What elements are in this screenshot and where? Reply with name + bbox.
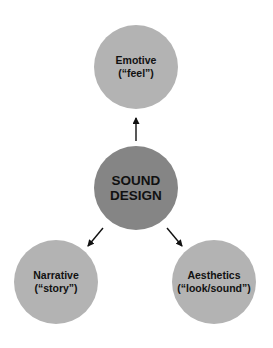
node-narrative: Narrative (“story”) [14, 240, 98, 324]
node-emotive: Emotive (“feel”) [94, 25, 178, 109]
node-center-line2: DESIGN [110, 188, 162, 203]
node-center-line1: SOUND [112, 173, 161, 188]
node-sound-design: SOUND DESIGN [94, 146, 178, 230]
node-emotive-title: Emotive [116, 54, 157, 67]
node-aesthetics-title: Aesthetics [187, 269, 240, 282]
node-narrative-subtitle: (“story”) [34, 282, 77, 295]
node-emotive-subtitle: (“feel”) [118, 67, 154, 80]
node-aesthetics: Aesthetics (“look/sound”) [172, 240, 256, 324]
node-aesthetics-subtitle: (“look/sound”) [177, 282, 251, 295]
node-narrative-title: Narrative [33, 269, 79, 282]
arrow-to-aesthetics [167, 228, 182, 246]
arrow-to-narrative [88, 228, 103, 246]
